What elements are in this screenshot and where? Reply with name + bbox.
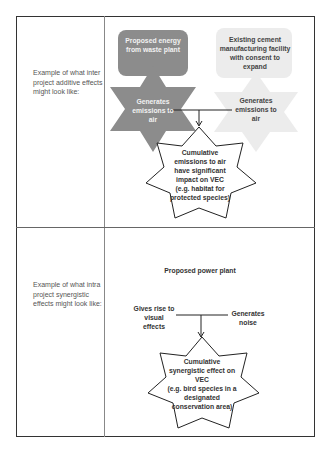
energy-from-waste-label: Proposed energy from waste plant <box>118 36 188 54</box>
visual-effects-label: Gives rise to visual effects <box>133 304 175 331</box>
power-plant-label: Proposed power plant <box>150 266 250 275</box>
emissions-label-light: Generates emissions to air <box>232 96 280 123</box>
cumulative-synergy-text: Cumulative synergistic effect on VEC (e.… <box>158 357 246 411</box>
emissions-label-dark: Generates emissions to air <box>128 97 178 124</box>
cement-facility-label: Existing cement manufacturing facility w… <box>218 35 292 71</box>
noise-label: Generates noise <box>228 309 268 327</box>
cumulative-emissions-text: Cumulative emissions to air have signifi… <box>160 148 240 202</box>
